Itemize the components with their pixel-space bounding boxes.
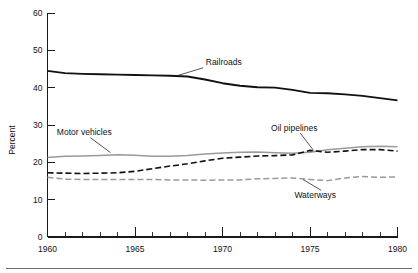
y-tick-label-0: 0 [38, 232, 43, 242]
chart-container: 0102030405060 19601965197019751980 Railr… [0, 0, 418, 273]
x-tick-label-1980: 1980 [388, 244, 407, 254]
series-label-oil-pipelines: Oil pipelines [271, 123, 317, 133]
series-line-railroads [48, 71, 398, 100]
series-line-waterways [48, 177, 398, 181]
leader-line-oil-pipelines [300, 133, 313, 150]
y-tick-label-30: 30 [33, 120, 43, 130]
y-axis-ticks: 0102030405060 [33, 8, 54, 242]
chart-axes [48, 13, 398, 237]
y-tick-label-10: 10 [33, 195, 43, 205]
series-label-motor-vehicles: Motor vehicles [57, 127, 112, 137]
series-label-railroads: Railroads [206, 57, 242, 67]
x-tick-label-1965: 1965 [126, 244, 145, 254]
leader-line-waterways [303, 180, 321, 191]
x-tick-label-1975: 1975 [301, 244, 320, 254]
chart-series-group [48, 71, 398, 181]
x-tick-label-1960: 1960 [38, 244, 57, 254]
y-tick-label-20: 20 [33, 157, 43, 167]
y-tick-label-60: 60 [33, 8, 43, 18]
series-label-waterways: Waterways [294, 190, 336, 200]
leader-line-railroads [177, 68, 203, 76]
y-tick-label-50: 50 [33, 45, 43, 55]
y-tick-label-40: 40 [33, 83, 43, 93]
y-axis-title: Percent [7, 125, 17, 155]
x-axis-ticks: 19601965197019751980 [38, 227, 407, 254]
leader-line-motor-vehicles [90, 138, 110, 153]
x-tick-label-1970: 1970 [213, 244, 232, 254]
transport-share-line-chart: 0102030405060 19601965197019751980 Railr… [0, 0, 418, 273]
